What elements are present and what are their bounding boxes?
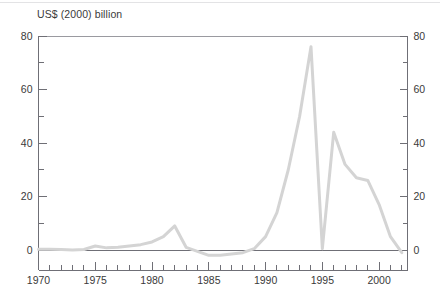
chart-figure: US$ (2000) billion 002020404060608080197… bbox=[0, 0, 440, 307]
y-tick-label-right-20: 20 bbox=[414, 190, 426, 202]
y-tick-label-right-40: 40 bbox=[414, 137, 426, 149]
y-tick-label-left-0: 0 bbox=[27, 244, 33, 256]
y-tick-label-right-0: 0 bbox=[414, 244, 420, 256]
x-tick-label-2000: 2000 bbox=[367, 274, 391, 286]
y-tick-label-left-60: 60 bbox=[21, 83, 33, 95]
x-tick-label-1995: 1995 bbox=[311, 274, 335, 286]
x-tick-label-1990: 1990 bbox=[254, 274, 278, 286]
line-chart-plot: 0020204040606080801970197519801985199019… bbox=[0, 0, 440, 307]
y-tick-label-right-60: 60 bbox=[414, 83, 426, 95]
y-tick-label-right-80: 80 bbox=[414, 30, 426, 42]
x-tick-label-1980: 1980 bbox=[140, 274, 164, 286]
y-tick-label-left-80: 80 bbox=[21, 30, 33, 42]
data-series-line-0 bbox=[39, 47, 402, 256]
y-tick-label-left-40: 40 bbox=[21, 137, 33, 149]
x-tick-label-1975: 1975 bbox=[84, 274, 108, 286]
x-tick-label-1985: 1985 bbox=[197, 274, 221, 286]
y-tick-label-left-20: 20 bbox=[21, 190, 33, 202]
axes-group bbox=[39, 36, 408, 270]
tick-labels-group: 0020204040606080801970197519801985199019… bbox=[21, 30, 426, 286]
data-series-group bbox=[39, 47, 402, 256]
x-tick-label-1970: 1970 bbox=[27, 274, 51, 286]
